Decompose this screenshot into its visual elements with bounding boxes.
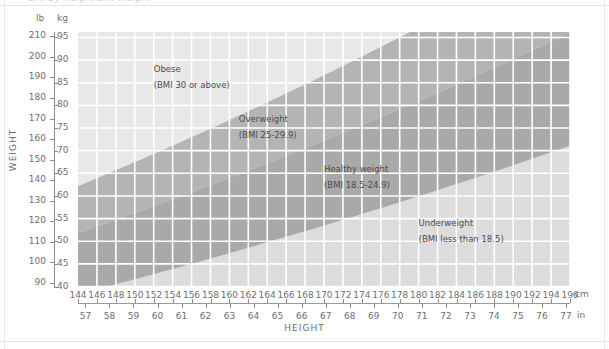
y-axis-tick-mark-kg (54, 83, 58, 84)
y-axis-tick-lb: 120 (22, 215, 46, 225)
x-axis-tick-mark-cm (475, 299, 476, 303)
x-axis-tick-mark-in (158, 304, 159, 308)
x-axis-tick-mark-cm (551, 299, 552, 303)
x-axis-tick-mark-in (206, 304, 207, 308)
x-axis-tick-mark-in (109, 304, 110, 308)
x-axis-tick-mark-cm (324, 299, 325, 303)
y-axis-tick-kg: 90 (57, 54, 75, 64)
x-axis-tick-in: 62 (196, 311, 216, 321)
x-axis-tick-in: 60 (148, 311, 168, 321)
x-axis-tick-in: 68 (340, 311, 360, 321)
x-axis-tick-mark-cm (173, 299, 174, 303)
page-edge-right (604, 0, 605, 349)
band-label-title: Healthy weight (324, 164, 388, 174)
y-axis-tick-kg: 75 (57, 122, 75, 132)
x-axis-tick-mark-cm (116, 299, 117, 303)
y-axis-tick-mark-lb (50, 221, 54, 222)
x-axis-tick-mark-in (542, 304, 543, 308)
y-axis-tick-kg: 85 (57, 77, 75, 87)
y-axis-tick-lb: 110 (22, 236, 46, 246)
y-axis-tick-lb: 200 (22, 51, 46, 61)
x-axis-tick-mark-cm (192, 299, 193, 303)
y-axis-tick-lb: 130 (22, 195, 46, 205)
x-axis-tick-mark-cm (211, 299, 212, 303)
x-axis-tick-mark-in (230, 304, 231, 308)
x-axis-tick-mark-in (350, 304, 351, 308)
bmi-band-chart (78, 32, 570, 287)
y-axis-tick-mark-kg (54, 105, 58, 106)
x-axis-tick-in: 64 (244, 311, 264, 321)
x-axis-tick-in: 76 (532, 311, 552, 321)
x-axis-tick-in: 71 (412, 311, 432, 321)
x-axis-tick-mark-in (518, 304, 519, 308)
band-label-range: (BMI less than 18.5) (419, 231, 504, 247)
chart-plot-area (78, 32, 570, 287)
y-axis-tick-lb: 150 (22, 154, 46, 164)
x-axis-spine (78, 303, 570, 304)
band-label-title: Underweight (419, 218, 473, 228)
x-axis-tick-mark-cm (229, 299, 230, 303)
y-axis-tick-mark-kg (54, 173, 58, 174)
y-axis-tick-mark-lb (50, 119, 54, 120)
x-axis-tick-mark-cm (513, 299, 514, 303)
x-axis-tick-in: 75 (508, 311, 528, 321)
y-axis-tick-mark-lb (50, 139, 54, 140)
y-axis-tick-lb: 180 (22, 92, 46, 102)
y-axis-tick-kg: 70 (57, 145, 75, 155)
y-axis-tick-mark-kg (54, 151, 58, 152)
x-axis-tick-mark-cm (457, 299, 458, 303)
x-axis-tick-mark-cm (78, 299, 79, 303)
y-axis-tick-lb: 90 (22, 277, 46, 287)
y-axis-tick-mark-kg (54, 219, 58, 220)
x-axis-tick-mark-in (470, 304, 471, 308)
page-edge-left (4, 0, 5, 349)
x-axis-tick-mark-cm (135, 299, 136, 303)
x-axis-tick-mark-cm (305, 299, 306, 303)
page-rule-bottom (0, 341, 609, 342)
x-axis-tick-in: 63 (220, 311, 240, 321)
weight-unit-kg-label: kg (57, 13, 68, 23)
x-axis-tick-in: 59 (123, 311, 143, 321)
x-axis-tick-mark-in (422, 304, 423, 308)
y-axis-tick-mark-lb (50, 57, 54, 58)
y-axis-tick-mark-kg (54, 287, 58, 288)
band-label-range: (BMI 18.5-24.9) (324, 177, 390, 193)
x-axis-tick-mark-cm (154, 299, 155, 303)
band-annotation-overweight: Overweight(BMI 25-29.9) (239, 111, 297, 143)
y-axis-title: WEIGHT (8, 120, 18, 180)
y-axis-tick-mark-kg (54, 241, 58, 242)
x-axis-tick-mark-in (326, 304, 327, 308)
y-axis-tick-mark-lb (50, 201, 54, 202)
height-unit-in-label: in (577, 310, 585, 320)
bmi-chart-page: BMI by Height and Weight lb kg cm in WEI… (0, 0, 609, 349)
x-axis-tick-in: 73 (460, 311, 480, 321)
y-axis-tick-mark-kg (54, 264, 58, 265)
x-axis-tick-mark-cm (438, 299, 439, 303)
x-axis-tick-in: 66 (292, 311, 312, 321)
y-axis-tick-mark-lb (50, 283, 54, 284)
x-axis-tick-in: 65 (268, 311, 288, 321)
y-axis-tick-mark-kg (54, 196, 58, 197)
x-axis-tick-in: 77 (556, 311, 576, 321)
band-annotation-healthy-weight: Healthy weight(BMI 18.5-24.9) (324, 161, 390, 193)
x-axis-tick-in: 72 (436, 311, 456, 321)
x-axis-tick-mark-in (302, 304, 303, 308)
y-axis-tick-kg: 55 (57, 213, 75, 223)
page-rule-top (0, 5, 609, 6)
band-annotation-underweight: Underweight(BMI less than 18.5) (419, 215, 504, 247)
y-axis-tick-mark-kg (54, 60, 58, 61)
page-title: BMI by Height and Weight (28, 0, 150, 3)
x-axis-tick-mark-in (494, 304, 495, 308)
band-label-range: (BMI 30 or above) (154, 77, 230, 93)
y-axis-tick-mark-lb (50, 77, 54, 78)
x-axis-tick-in: 57 (75, 311, 95, 321)
x-axis-title: HEIGHT (0, 323, 609, 333)
y-axis-tick-kg: 50 (57, 235, 75, 245)
y-axis-tick-kg: 80 (57, 99, 75, 109)
x-axis-tick-in: 70 (388, 311, 408, 321)
band-annotation-obese: Obese(BMI 30 or above) (154, 61, 230, 93)
x-axis-tick-in: 61 (172, 311, 192, 321)
x-axis-tick-mark-in (398, 304, 399, 308)
x-axis-tick-mark-in (133, 304, 134, 308)
x-axis-tick-mark-in (446, 304, 447, 308)
